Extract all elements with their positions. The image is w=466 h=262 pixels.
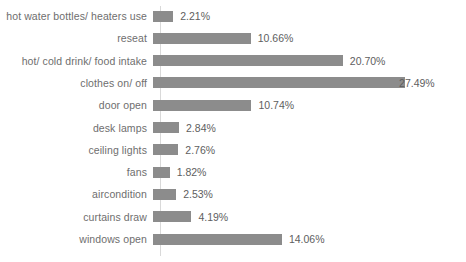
bar-value-label: 4.19% — [198, 211, 228, 223]
bar — [153, 144, 178, 155]
bar-track: 2.21% — [153, 5, 466, 27]
bar-value-label: 2.53% — [183, 188, 213, 200]
bar-row: reseat10.66% — [0, 27, 466, 49]
bar-row: hot water bottles/ heaters use2.21% — [0, 5, 466, 27]
bar-value-label: 2.21% — [180, 10, 210, 22]
bar — [153, 234, 282, 245]
bar-track: 27.49% — [153, 72, 466, 94]
bar-track: 1.82% — [153, 161, 466, 183]
bar-value-label: 2.76% — [185, 144, 215, 156]
category-label: reseat — [0, 32, 153, 44]
horizontal-bar-chart: hot water bottles/ heaters use2.21%resea… — [0, 0, 466, 262]
bar-track: 10.66% — [153, 27, 466, 49]
category-label: ceiling lights — [0, 144, 153, 156]
category-label: curtains draw — [0, 211, 153, 223]
bar-track: 2.84% — [153, 117, 466, 139]
category-label: aircondition — [0, 188, 153, 200]
bar-track: 20.70% — [153, 50, 466, 72]
bar-row: aircondition2.53% — [0, 183, 466, 205]
bar-row: curtains draw4.19% — [0, 206, 466, 228]
bar-value-label: 2.84% — [186, 122, 216, 134]
bar-row: door open10.74% — [0, 94, 466, 116]
bar-value-label: 27.49% — [399, 77, 435, 89]
bar-rows-container: hot water bottles/ heaters use2.21%resea… — [0, 0, 466, 262]
category-label: desk lamps — [0, 122, 153, 134]
bar-value-label: 1.82% — [177, 166, 207, 178]
bar — [153, 122, 179, 133]
category-label: clothes on/ off — [0, 77, 153, 89]
bar — [153, 33, 251, 44]
bar-row: desk lamps2.84% — [0, 117, 466, 139]
bar-row: ceiling lights2.76% — [0, 139, 466, 161]
bar — [153, 167, 170, 178]
bar-track: 2.76% — [153, 139, 466, 161]
bar — [153, 55, 343, 66]
bar — [153, 100, 251, 111]
category-label: door open — [0, 99, 153, 111]
bar-row: hot/ cold drink/ food intake20.70% — [0, 50, 466, 72]
category-label: hot water bottles/ heaters use — [0, 10, 153, 22]
bar — [153, 11, 173, 22]
bar-row: windows open14.06% — [0, 228, 466, 250]
bar-track: 10.74% — [153, 94, 466, 116]
bar-value-label: 10.74% — [258, 99, 294, 111]
bar-value-label: 20.70% — [350, 55, 386, 67]
bar-value-label: 10.66% — [258, 32, 294, 44]
bar-track: 14.06% — [153, 228, 466, 250]
bar-row: fans1.82% — [0, 161, 466, 183]
category-label: hot/ cold drink/ food intake — [0, 55, 153, 67]
bar-track: 2.53% — [153, 183, 466, 205]
bar-value-label: 14.06% — [289, 233, 325, 245]
bar — [153, 77, 405, 88]
category-label: fans — [0, 166, 153, 178]
bar — [153, 189, 176, 200]
bar-row: clothes on/ off27.49% — [0, 72, 466, 94]
category-label: windows open — [0, 233, 153, 245]
bar — [153, 211, 191, 222]
bar-track: 4.19% — [153, 206, 466, 228]
